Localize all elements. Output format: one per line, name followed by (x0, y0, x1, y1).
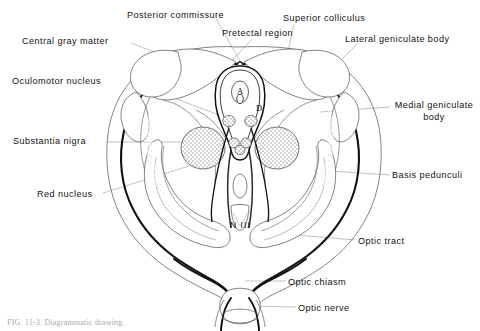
label-posterior-commissure: Posterior commissure (127, 10, 224, 21)
midbrain-cross-section-drawing (0, 0, 480, 331)
label-pretectal-region: Pretectal region (222, 28, 293, 39)
label-central-gray-matter: Central gray matter (22, 36, 108, 47)
label-basis-pedunculi: Basis pedunculi (392, 170, 462, 181)
mark-aqueduct-a: A (237, 86, 243, 96)
label-superior-colliculus: Superior colliculus (283, 13, 365, 24)
mark-darkschewitsch-d: D (256, 103, 262, 113)
label-oculomotor-nucleus: Oculomotor nucleus (12, 76, 101, 87)
label-optic-tract: Optic tract (358, 236, 404, 247)
figure-canvas: Central gray matter Oculomotor nucleus S… (0, 0, 480, 331)
mark-oculomotor-nerve-n3: N III (230, 220, 251, 231)
label-lateral-geniculate-body: Lateral geniculate body (345, 34, 449, 45)
label-optic-nerve: Optic nerve (298, 303, 349, 314)
label-substantia-nigra: Substantia nigra (13, 136, 86, 147)
figure-caption: FIG. 11-3. Diagrammatic drawing. (7, 318, 125, 327)
label-medial-geniculate-body: Medial geniculate body (391, 100, 477, 123)
label-red-nucleus: Red nucleus (37, 189, 93, 200)
label-optic-chiasm: Optic chiasm (288, 277, 346, 288)
